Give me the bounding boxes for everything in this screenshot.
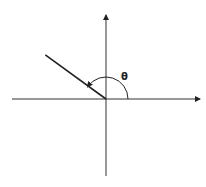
angle-label: θ: [121, 71, 128, 82]
terminal-ray: [45, 55, 106, 99]
angle-diagram: θ: [0, 0, 206, 187]
